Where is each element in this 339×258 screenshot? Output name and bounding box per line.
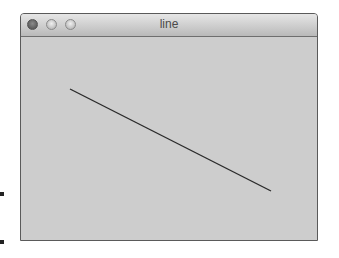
window-title: line: [21, 17, 317, 31]
app-window: line: [20, 13, 318, 241]
diagonal-line: [70, 89, 271, 191]
bullet-marker: [0, 240, 4, 244]
line-drawing: [21, 37, 317, 241]
bullet-marker: [0, 192, 4, 196]
drawing-canvas: [21, 37, 317, 240]
title-bar[interactable]: line: [21, 14, 317, 37]
